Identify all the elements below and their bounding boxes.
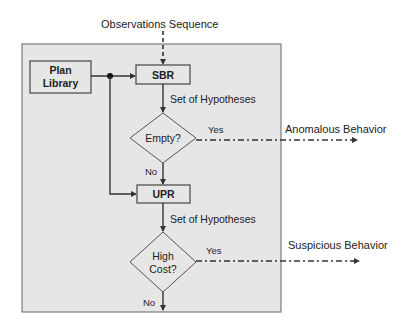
empty-decision-label: Empty? [130, 133, 196, 144]
observations-sequence-label: Observations Sequence [101, 19, 218, 30]
flowchart-canvas [0, 0, 408, 331]
plan-library-line1: Plan [30, 64, 91, 77]
sbr-label: SBR [136, 70, 190, 81]
high-cost-line1: High [130, 250, 196, 263]
suspicious-behavior-label: Suspicious Behavior [288, 240, 388, 251]
anomalous-behavior-label: Anomalous Behavior [285, 124, 387, 135]
plan-library-line2: Library [30, 77, 91, 90]
empty-no-label: No [145, 167, 157, 177]
upr-output-label: Set of Hypotheses [170, 214, 256, 225]
empty-yes-label: Yes [208, 125, 224, 135]
cost-no-label: No [143, 298, 155, 308]
upr-label: UPR [137, 189, 190, 200]
high-cost-line2: Cost? [130, 263, 196, 276]
plan-library-label: Plan Library [30, 64, 91, 90]
sbr-output-label: Set of Hypotheses [170, 94, 256, 105]
high-cost-label: High Cost? [130, 250, 196, 276]
cost-yes-label: Yes [206, 246, 222, 256]
